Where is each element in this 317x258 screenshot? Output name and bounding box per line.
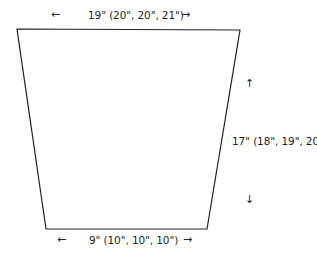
height-down-arrow-icon: ↓ — [245, 194, 254, 205]
bottom-width-label: 9" (10", 10", 10") — [89, 235, 178, 246]
trapezoid-shape — [17, 29, 240, 229]
top-width-label: 19" (20", 20", 21") — [88, 10, 184, 21]
bottom-right-arrow-icon: → — [183, 234, 192, 245]
bottom-left-arrow-icon: ← — [57, 234, 66, 245]
top-left-arrow-icon: ← — [51, 9, 60, 20]
trapezoid-diagram — [0, 0, 317, 258]
height-up-arrow-icon: ↑ — [245, 78, 254, 89]
height-label: 17" (18", 19", 20") — [232, 136, 317, 147]
top-right-arrow-icon: → — [181, 9, 190, 20]
